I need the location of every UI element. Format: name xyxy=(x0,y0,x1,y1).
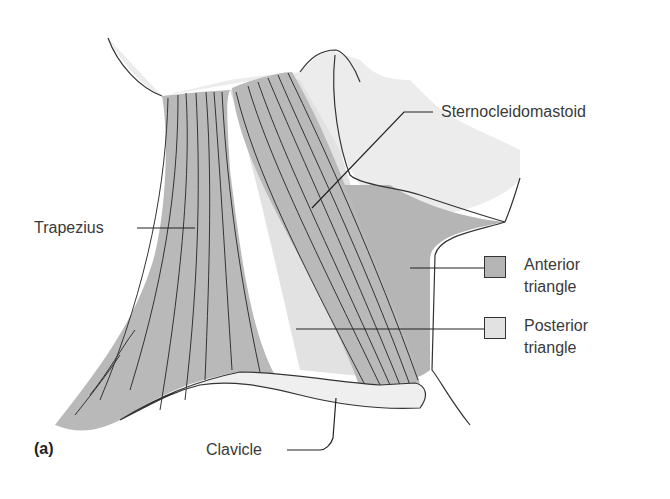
sternocleidomastoid-label: Sternocleidomastoid xyxy=(441,102,586,122)
neck-anatomy-illustration xyxy=(0,0,670,499)
trapezius-label: Trapezius xyxy=(34,218,104,238)
posterior-triangle-legend-line2: triangle xyxy=(524,338,576,358)
clavicle-leader xyxy=(287,398,336,450)
anterior-triangle-swatch xyxy=(484,256,506,278)
clavicle-label: Clavicle xyxy=(206,440,262,460)
panel-label: (a) xyxy=(34,440,54,458)
anterior-triangle-legend-line1: Anterior xyxy=(524,255,580,275)
anterior-triangle-legend-line2: triangle xyxy=(524,277,576,297)
posterior-triangle-legend-line1: Posterior xyxy=(524,316,588,336)
posterior-triangle-swatch xyxy=(484,317,506,339)
